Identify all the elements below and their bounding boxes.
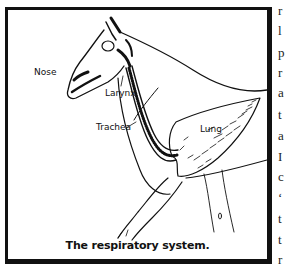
side-text-line: l <box>278 23 282 39</box>
side-text-line: p <box>278 45 285 61</box>
horse-respiratory-illustration <box>8 10 267 259</box>
side-text-line: t <box>278 211 282 227</box>
side-text-line: t <box>278 107 282 123</box>
label-larynx: Larynx <box>105 88 136 98</box>
side-text-line: t <box>278 232 282 248</box>
side-text-line: a <box>278 128 284 144</box>
cropped-body-text: r l p r a t a I c ‘ t t r <box>278 0 286 268</box>
label-lung: Lung <box>200 124 222 134</box>
side-text-line: a <box>278 85 284 101</box>
side-text-line: r <box>278 65 282 81</box>
side-text-line: c <box>278 169 284 185</box>
label-nose: Nose <box>34 67 56 77</box>
figure-frame: Nose Larynx Trachea Lung The respiratory… <box>5 7 272 264</box>
figure-caption: The respiratory system. <box>8 239 267 252</box>
side-text-line: I <box>278 149 282 165</box>
label-trachea: Trachea <box>96 122 131 132</box>
side-text-line: r <box>278 252 282 268</box>
side-text-line: r <box>278 3 282 19</box>
side-text-line: ‘ <box>278 190 282 206</box>
